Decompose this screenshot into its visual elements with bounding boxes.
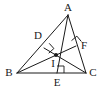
right-angle-at-D: [44, 43, 54, 53]
altitude-AE: [57, 15, 68, 73]
point-label-e: E: [54, 77, 61, 88]
point-label-c: C: [89, 67, 96, 78]
point-label-d: D: [34, 30, 42, 41]
geometry-canvas: [0, 0, 103, 89]
point-label-i: I: [51, 58, 55, 69]
geometry-figure: ABCDEFI: [0, 0, 103, 89]
point-label-b: B: [5, 67, 12, 78]
point-label-f: F: [81, 40, 87, 51]
point-label-a: A: [64, 2, 72, 13]
side-AB: [17, 15, 68, 73]
